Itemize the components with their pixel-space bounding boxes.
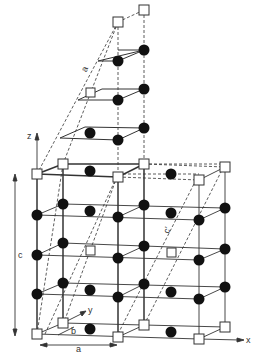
axis-x-label: x	[246, 335, 251, 345]
axes	[13, 133, 244, 347]
axis-z-label: z	[27, 131, 32, 141]
right-unit-cell	[199, 167, 225, 339]
upper-oblique-layers	[60, 50, 144, 140]
lattice-a-label: a	[76, 344, 81, 354]
axis-y-label: y	[88, 305, 93, 315]
lattice-diagram	[0, 0, 262, 361]
filled-circle-sites	[32, 45, 231, 338]
lattice-b-label: b	[71, 326, 76, 336]
lattice-c-label: c	[18, 250, 23, 260]
